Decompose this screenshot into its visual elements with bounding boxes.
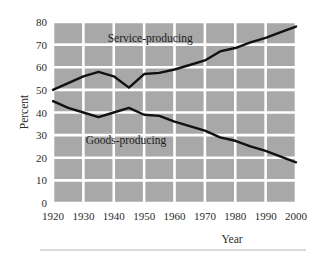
y-tick-label: 70 xyxy=(36,39,48,51)
employment-share-line-chart: 01020304050607080 1920193019401950196019… xyxy=(0,0,316,255)
x-tick-label: 1930 xyxy=(72,210,95,222)
x-axis-title: Year xyxy=(221,233,242,245)
y-tick-label: 10 xyxy=(36,174,48,186)
y-tick-label: 20 xyxy=(36,152,48,164)
x-tick-label: 1990 xyxy=(255,210,278,222)
x-tick-label: 1950 xyxy=(133,210,156,222)
y-tick-label: 0 xyxy=(42,197,48,209)
y-tick-label: 40 xyxy=(36,107,48,119)
y-axis-tick-labels: 01020304050607080 xyxy=(36,16,48,209)
y-axis-title: Percent xyxy=(18,94,30,129)
x-axis-tick-labels: 192019301940195019601970198019902000 xyxy=(42,210,308,222)
x-tick-label: 1940 xyxy=(103,210,126,222)
y-tick-label: 30 xyxy=(36,129,48,141)
y-tick-label: 60 xyxy=(36,61,48,73)
y-tick-label: 50 xyxy=(36,84,48,96)
x-tick-label: 1970 xyxy=(194,210,217,222)
x-tick-label: 1960 xyxy=(164,210,187,222)
x-tick-label: 1980 xyxy=(224,210,247,222)
series-label-goods-producing: Goods-producing xyxy=(86,134,167,147)
x-tick-label: 1920 xyxy=(42,210,65,222)
x-tick-label: 2000 xyxy=(285,210,308,222)
chart-figure: 01020304050607080 1920193019401950196019… xyxy=(0,0,316,255)
y-tick-label: 80 xyxy=(36,16,48,28)
series-label-service-producing: Service-producing xyxy=(108,32,193,45)
